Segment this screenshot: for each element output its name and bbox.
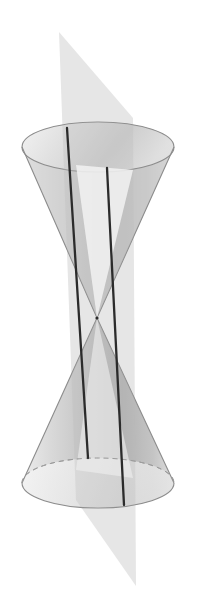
conic-section-figure: Double cone intersected by a plane Doubl… xyxy=(0,0,198,610)
apex-point xyxy=(95,316,98,319)
double-cone-diagram: Double cone intersected by a plane xyxy=(0,0,198,610)
